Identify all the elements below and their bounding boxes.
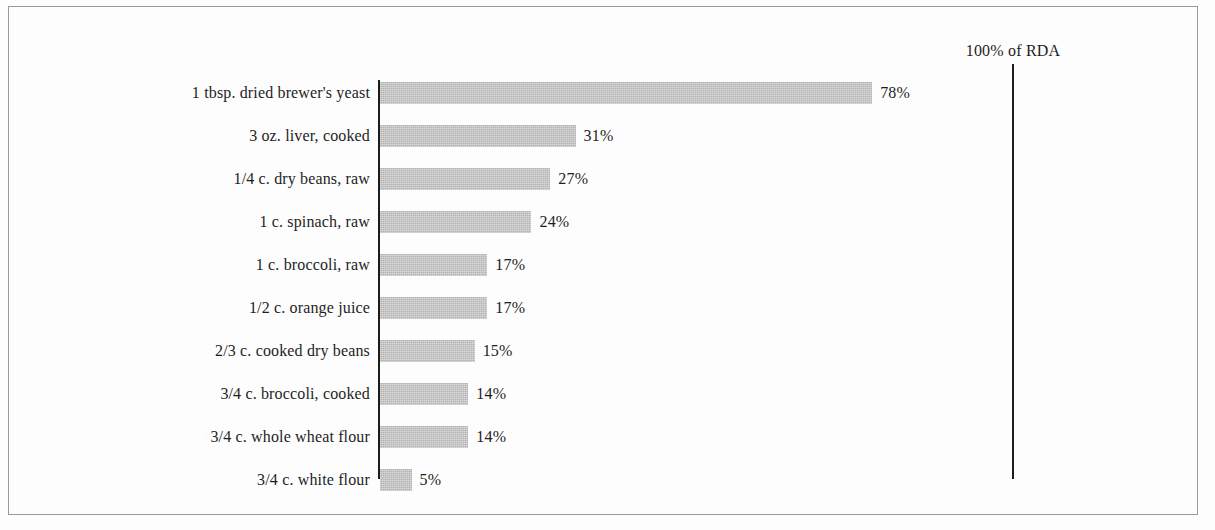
bar [380,254,487,276]
bar [380,125,576,147]
bar-row: 1 c. spinach, raw24% [0,211,1215,233]
bar-value-label: 14% [476,385,506,403]
bar-value-label: 14% [476,428,506,446]
bar-row: 3 oz. liver, cooked31% [0,125,1215,147]
bar-category-label: 1 c. broccoli, raw [256,256,370,274]
bar-row: 1 c. broccoli, raw17% [0,254,1215,276]
bar-row: 3/4 c. broccoli, cooked14% [0,383,1215,405]
bar [380,297,487,319]
bar-category-label: 1/2 c. orange juice [249,299,370,317]
bar-value-label: 5% [420,471,442,489]
bar-value-label: 27% [558,170,588,188]
bar-value-label: 24% [539,213,569,231]
bar-category-label: 1/4 c. dry beans, raw [234,170,370,188]
bar [380,340,475,362]
bar-category-label: 3 oz. liver, cooked [249,127,370,145]
bar-category-label: 1 c. spinach, raw [259,213,370,231]
bar-value-label: 17% [495,256,525,274]
bar-row: 3/4 c. white flour5% [0,469,1215,491]
bar [380,426,468,448]
bar-value-label: 78% [880,84,910,102]
bar [380,82,872,104]
bar-row: 1/2 c. orange juice17% [0,297,1215,319]
bar [380,469,412,491]
bar-value-label: 17% [495,299,525,317]
bar-value-label: 31% [584,127,614,145]
bar [380,211,531,233]
bar-category-label: 3/4 c. white flour [257,471,370,489]
bar-row: 3/4 c. whole wheat flour14% [0,426,1215,448]
bar-row: 1/4 c. dry beans, raw27% [0,168,1215,190]
bar-row: 1 tbsp. dried brewer's yeast78% [0,82,1215,104]
bar-category-label: 1 tbsp. dried brewer's yeast [192,84,370,102]
bar-value-label: 15% [483,342,513,360]
rda-reference-label: 100% of RDA [966,42,1061,60]
chart-page: 100% of RDA 1 tbsp. dried brewer's yeast… [0,0,1215,530]
bar-chart-plot: 100% of RDA 1 tbsp. dried brewer's yeast… [0,0,1215,530]
bar-category-label: 3/4 c. broccoli, cooked [220,385,370,403]
bar-category-label: 2/3 c. cooked dry beans [215,342,370,360]
bar [380,168,550,190]
bar [380,383,468,405]
bar-row: 2/3 c. cooked dry beans15% [0,340,1215,362]
bar-category-label: 3/4 c. whole wheat flour [210,428,370,446]
